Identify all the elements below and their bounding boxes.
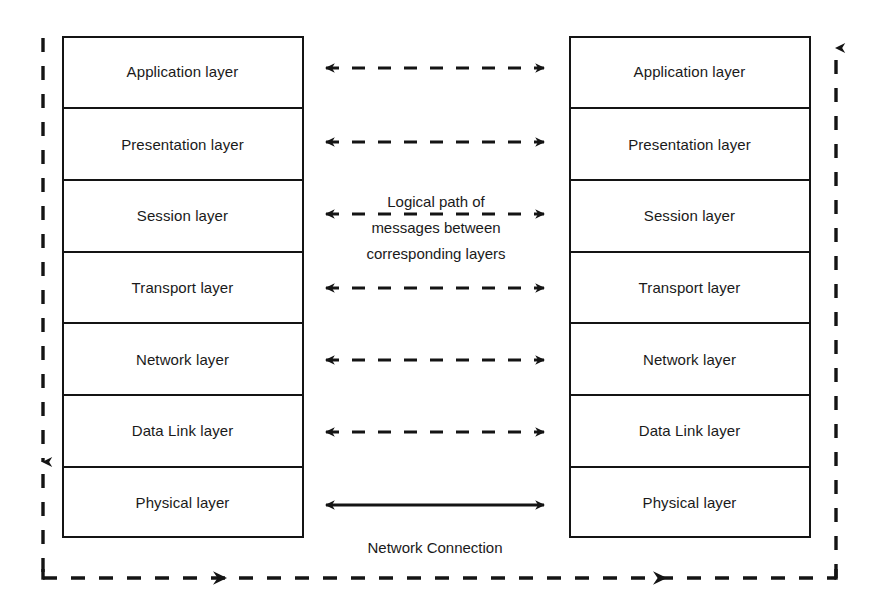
right-layer-application[interactable]: Application layer [569,36,811,108]
right-layer-data-link-label: Data Link layer [639,422,741,439]
right-layer-transport-label: Transport layer [639,279,741,296]
logical-path-note: Logical path of messages between corresp… [318,189,554,267]
left-layer-presentation[interactable]: Presentation layer [62,107,304,179]
left-layer-physical-label: Physical layer [136,494,230,511]
right-layer-application-label: Application layer [634,63,746,80]
left-layer-network[interactable]: Network layer [62,322,304,394]
logical-path-note-line3: corresponding layers [318,241,554,267]
left-layer-presentation-label: Presentation layer [121,136,244,153]
right-layer-presentation[interactable]: Presentation layer [569,107,811,179]
osi-diagram: Application layer Presentation layer Ses… [0,0,870,615]
outer-path-arrowhead-right [653,571,667,585]
left-layer-transport-label: Transport layer [132,279,234,296]
right-layer-network[interactable]: Network layer [569,322,811,394]
network-connection-label: Network Connection [310,539,560,556]
right-layer-session-label: Session layer [644,207,735,224]
right-layer-session[interactable]: Session layer [569,179,811,251]
right-layer-data-link[interactable]: Data Link layer [569,394,811,466]
logical-path-note-line1: Logical path of [318,189,554,215]
logical-path-note-line2: messages between [318,215,554,241]
left-protocol-stack: Application layer Presentation layer Ses… [62,36,304,538]
left-layer-session-label: Session layer [137,207,228,224]
left-layer-network-label: Network layer [136,351,229,368]
left-layer-application[interactable]: Application layer [62,36,304,108]
left-layer-data-link[interactable]: Data Link layer [62,394,304,466]
left-layer-application-label: Application layer [127,63,239,80]
left-layer-physical[interactable]: Physical layer [62,466,304,538]
right-layer-network-label: Network layer [643,351,736,368]
left-layer-transport[interactable]: Transport layer [62,251,304,323]
left-layer-data-link-label: Data Link layer [132,422,234,439]
right-protocol-stack: Application layer Presentation layer Ses… [569,36,811,538]
right-layer-transport[interactable]: Transport layer [569,251,811,323]
right-layer-physical-label: Physical layer [643,494,737,511]
left-layer-session[interactable]: Session layer [62,179,304,251]
outer-path-bottom-horizontal [43,569,836,585]
right-layer-physical[interactable]: Physical layer [569,466,811,538]
right-layer-presentation-label: Presentation layer [628,136,751,153]
